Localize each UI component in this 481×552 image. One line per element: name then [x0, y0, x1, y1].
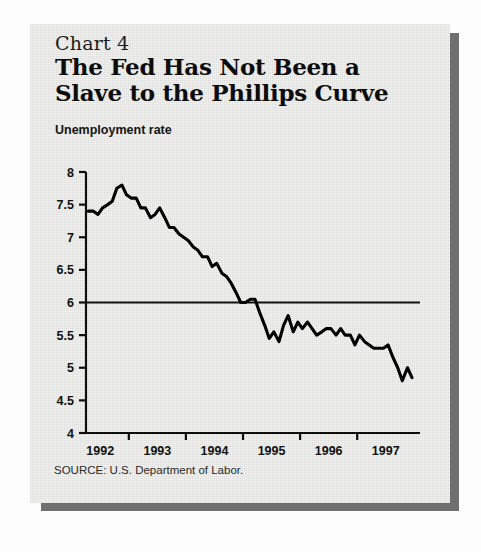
- x-tick-label-group: 199219931994199519961997: [86, 444, 399, 458]
- y-tick-label: 4.5: [57, 394, 74, 408]
- source-note: SOURCE: U.S. Department of Labor.: [54, 464, 243, 476]
- chart-plot-svg: 44.555.566.577.58 1992199319941995199619…: [30, 24, 450, 503]
- plot-area: 44.555.566.577.58 1992199319941995199619…: [30, 24, 450, 503]
- x-tick-label: 1995: [258, 444, 286, 458]
- x-tick-label: 1996: [315, 444, 343, 458]
- y-tick-label: 6: [67, 296, 74, 310]
- y-tick-label: 7: [67, 231, 74, 245]
- x-tick-label: 1992: [86, 444, 114, 458]
- x-tick-label: 1994: [201, 444, 229, 458]
- y-tick-label: 7.5: [57, 198, 74, 212]
- x-tick-label: 1993: [143, 444, 171, 458]
- figure-root: Chart 4 The Fed Has Not Been a Slave to …: [0, 0, 481, 552]
- y-tick-label: 4: [67, 427, 74, 441]
- y-tick-label-group: 44.555.566.577.58: [57, 166, 74, 441]
- unemployment-rate-line: [88, 185, 412, 381]
- y-tick-label: 5.5: [57, 329, 74, 343]
- x-tick-label: 1997: [372, 444, 400, 458]
- y-tick-label: 8: [67, 166, 74, 180]
- y-tick-label: 5: [67, 361, 74, 375]
- chart-card: Chart 4 The Fed Has Not Been a Slave to …: [30, 24, 450, 503]
- y-tick-label: 6.5: [57, 263, 74, 277]
